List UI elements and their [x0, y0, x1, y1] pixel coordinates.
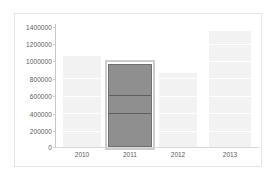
- bar-chart-widget: 1400000 1200000 1000000 800000 600000 40…: [14, 13, 262, 167]
- y-tick-label: 200000: [15, 128, 52, 135]
- gridline: [209, 131, 251, 132]
- bar-2010[interactable]: [63, 56, 101, 147]
- y-tick-label: 800000: [15, 76, 52, 83]
- x-tick-label-2010: 2010: [63, 151, 101, 159]
- gridline: [159, 96, 197, 97]
- y-tick-label: 600000: [15, 93, 52, 100]
- x-axis-line: [55, 147, 259, 148]
- y-tick-label: 1000000: [15, 58, 52, 65]
- y-tick-label: 400000: [15, 111, 52, 118]
- y-tick-label: 1400000: [15, 24, 52, 31]
- gridline: [159, 113, 197, 114]
- gridline: [109, 95, 151, 96]
- gridline: [159, 78, 197, 79]
- gridline: [209, 44, 251, 45]
- y-axis: 1400000 1200000 1000000 800000 600000 40…: [15, 14, 52, 168]
- gridline: [209, 96, 251, 97]
- gridline: [63, 78, 101, 79]
- gridline: [63, 96, 101, 97]
- bar-2013[interactable]: [209, 31, 251, 147]
- x-tick-label-2013: 2013: [209, 151, 251, 159]
- bar-2012[interactable]: [159, 73, 197, 147]
- gridline: [63, 113, 101, 114]
- x-tick-label-2012: 2012: [159, 151, 197, 159]
- y-tick-label: 1200000: [15, 41, 52, 48]
- x-tick-label-2011: 2011: [108, 151, 152, 159]
- gridline: [209, 61, 251, 62]
- gridline: [109, 113, 151, 114]
- gridline: [209, 78, 251, 79]
- bar-2011[interactable]: [108, 64, 152, 147]
- gridline: [63, 131, 101, 132]
- gridline: [159, 131, 197, 132]
- y-axis-line: [55, 24, 56, 148]
- y-tick-label: 0: [15, 144, 52, 151]
- gridline: [209, 113, 251, 114]
